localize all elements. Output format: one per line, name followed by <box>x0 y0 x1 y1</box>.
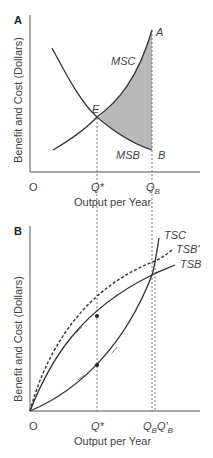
point-e-label: E <box>92 103 100 115</box>
diagram: A MSC MSB E A B O Q* QB Output per Year … <box>0 0 213 458</box>
panel-a-qb-tick: QB <box>146 181 161 196</box>
panel-a-x-axis-label: Output per Year <box>74 196 151 208</box>
tsc-point-qstar <box>95 363 99 367</box>
tsc-tangent-right <box>112 347 117 353</box>
panel-b-label: B <box>14 225 22 237</box>
tsb-label: TSB <box>180 258 201 270</box>
panel-b-origin: O <box>29 420 38 432</box>
point-a-label: A <box>155 26 163 38</box>
tsb-prime-curve <box>30 250 172 411</box>
deadweight-loss-area <box>99 30 152 150</box>
panel-a-y-axis-label: Benefit and Cost (Dollars) <box>12 37 24 163</box>
panel-b-x-axis-label: Output per Year <box>74 435 151 447</box>
panel-a-label: A <box>14 14 22 26</box>
panel-b-qstar-tick: Q* <box>91 420 105 432</box>
tsb-prime-label: TSB' <box>176 243 200 255</box>
panel-a-qstar-tick: Q* <box>91 181 105 193</box>
tsb-point-qstar <box>95 314 99 318</box>
msc-label: MSC <box>111 55 136 67</box>
msb-label: MSB <box>116 149 140 161</box>
panel-b-y-axis-label: Benefit and Cost (Dollars) <box>12 276 24 402</box>
tsc-curve <box>30 238 159 411</box>
tsb-curve <box>30 265 175 411</box>
panel-b-qb-tick: QBQ'B <box>143 420 174 435</box>
point-b-label: B <box>158 149 165 161</box>
tsc-label: TSC <box>164 229 186 241</box>
panel-a-origin: O <box>29 181 38 193</box>
